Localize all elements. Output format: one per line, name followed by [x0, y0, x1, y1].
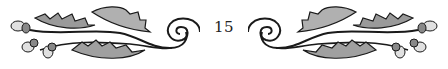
oak-leaf-acorn-flourish-icon — [248, 0, 448, 69]
